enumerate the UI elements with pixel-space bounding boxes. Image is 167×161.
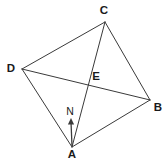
north-arrow-shaft (71, 122, 72, 146)
edge-BA (72, 100, 150, 147)
edge-AD (22, 69, 72, 147)
north-arrow-head-icon (68, 118, 74, 124)
figure-canvas (0, 0, 167, 161)
geometry-figure: ABCDEN (0, 0, 167, 161)
diagonal-CA (72, 22, 105, 147)
edge-DC (22, 22, 105, 69)
edge-CB (105, 22, 150, 100)
point-label-a: A (68, 149, 76, 161)
point-label-d: D (7, 63, 15, 75)
point-label-n: N (66, 106, 74, 117)
point-label-c: C (100, 5, 108, 17)
point-label-e: E (92, 71, 100, 83)
segments-group (22, 22, 150, 147)
point-label-b: B (154, 102, 162, 114)
